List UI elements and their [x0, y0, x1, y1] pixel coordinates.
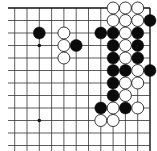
white-stone [119, 52, 131, 64]
black-stone [107, 40, 119, 52]
go-board[interactable] [0, 0, 157, 151]
black-stone [132, 27, 144, 39]
white-stone [132, 65, 144, 77]
black-stone [95, 102, 107, 114]
star-point [38, 44, 42, 48]
black-stone [132, 40, 144, 52]
black-stone [119, 102, 131, 114]
white-stone [107, 102, 119, 114]
black-stone [107, 77, 119, 89]
black-stone [107, 27, 119, 39]
white-stone [119, 15, 131, 27]
white-stone [132, 102, 144, 114]
star-point [38, 119, 42, 123]
white-stone [58, 40, 70, 52]
black-stone [107, 65, 119, 77]
black-stone [33, 27, 45, 39]
black-stone [107, 90, 119, 102]
white-stone [58, 27, 70, 39]
white-stone [119, 2, 131, 14]
white-stone [132, 15, 144, 27]
black-stone [107, 52, 119, 64]
white-stone [119, 27, 131, 39]
white-stone [119, 90, 131, 102]
white-stone [107, 15, 119, 27]
white-stone [119, 77, 131, 89]
black-stone [70, 40, 82, 52]
white-stone [95, 115, 107, 127]
white-stone [132, 2, 144, 14]
white-stone [132, 77, 144, 89]
white-stone [58, 52, 70, 64]
white-stone [107, 115, 119, 127]
black-stone [95, 27, 107, 39]
white-stone [119, 40, 131, 52]
black-stone [119, 65, 131, 77]
black-stone [144, 65, 156, 77]
white-stone [107, 2, 119, 14]
black-stone [144, 15, 156, 27]
black-stone [132, 52, 144, 64]
